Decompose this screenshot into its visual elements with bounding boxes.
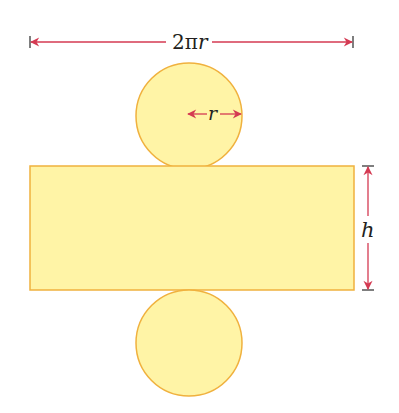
cylinder-net-diagram: 2πr r h <box>0 0 399 413</box>
top-circle <box>136 63 242 169</box>
circumference-label: 2πr <box>172 30 209 54</box>
circumference-dimension: 2πr <box>30 30 353 54</box>
height-dimension: h <box>361 166 375 290</box>
height-label: h <box>361 218 375 242</box>
lateral-rectangle <box>30 166 354 290</box>
bottom-circle <box>136 290 242 396</box>
